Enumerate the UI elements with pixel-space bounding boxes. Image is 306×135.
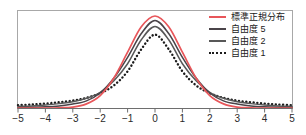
- legend-item: 自由度 2: [208, 35, 296, 46]
- legend-item-label: 標準正規分布: [231, 12, 285, 22]
- legend-line-icon: [208, 36, 227, 46]
- legend-line-icon: [208, 12, 227, 22]
- x-tick-label: 1: [170, 113, 194, 125]
- legend-item-label: 自由度 2: [231, 36, 266, 46]
- axis-ticks: [18, 109, 292, 113]
- x-tick-label: −1: [116, 113, 140, 125]
- legend-item-label: 自由度 5: [231, 24, 266, 34]
- x-tick-label: 2: [198, 113, 222, 125]
- x-tick-labels: −5−4−3−2−1012345: [0, 113, 306, 133]
- x-axis: [18, 109, 293, 113]
- legend-item: 自由度 1: [208, 47, 296, 58]
- t-distribution-chart: −5−4−3−2−1012345 標準正規分布自由度 5自由度 2自由度 1: [0, 0, 306, 135]
- x-tick-label: 4: [253, 113, 277, 125]
- x-tick-label: −3: [61, 113, 85, 125]
- x-tick-label: 5: [280, 113, 304, 125]
- legend-line-icon: [208, 48, 227, 58]
- legend-line-icon: [208, 24, 227, 34]
- x-tick-label: 3: [225, 113, 249, 125]
- x-tick-label: −5: [6, 113, 30, 125]
- legend-item: 標準正規分布: [208, 11, 296, 22]
- x-tick-label: −2: [88, 113, 112, 125]
- x-tick-label: −4: [33, 113, 57, 125]
- x-tick-label: 0: [143, 113, 167, 125]
- legend-item-label: 自由度 1: [231, 48, 266, 58]
- legend-item: 自由度 5: [208, 23, 296, 34]
- chart-legend: 標準正規分布自由度 5自由度 2自由度 1: [208, 11, 296, 58]
